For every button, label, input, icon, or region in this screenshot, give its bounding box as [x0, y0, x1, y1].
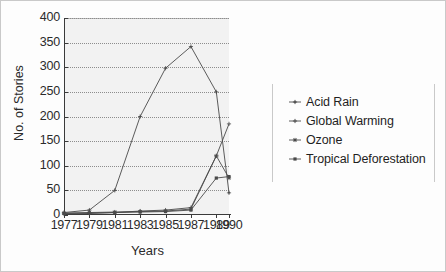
y-tick-label: 50	[24, 183, 60, 195]
legend-label: Acid Rain	[306, 95, 359, 109]
x-tick-mark	[115, 215, 116, 218]
x-tick-label: 1990	[211, 219, 247, 232]
series-global-warming	[62, 122, 231, 216]
chart-figure: 050100150200250300350400 197719791981198…	[0, 0, 446, 272]
data-point-marker-filled-square	[164, 210, 167, 213]
data-point-marker-filled-square	[227, 175, 230, 178]
y-tick-label: 300	[24, 60, 60, 72]
chart-legend: Acid RainGlobal WarmingOzoneTropical Def…	[288, 93, 438, 173]
y-tick-label: 200	[24, 110, 60, 122]
data-point-marker-plus-dot	[138, 114, 142, 118]
series-tropical-deforestation	[62, 175, 230, 215]
x-tick-mark	[191, 215, 192, 218]
data-point-marker-plus-dot	[214, 90, 218, 94]
series-ozone	[62, 154, 231, 215]
data-point-marker-filled-square	[189, 208, 192, 211]
data-point-marker-filled-square	[215, 176, 218, 179]
legend-label: Global Warming	[306, 114, 394, 128]
series-acid-rain	[62, 44, 231, 214]
y-tick-label: 350	[24, 36, 60, 48]
data-point-marker-plus-dot	[293, 100, 297, 104]
data-point-marker-filled-square	[139, 210, 142, 213]
legend-item-ozone[interactable]: Ozone	[288, 131, 342, 149]
legend-marker-plus-icon	[288, 114, 306, 128]
data-point-marker-plus	[227, 122, 231, 126]
data-point-marker-filled-square	[88, 211, 91, 214]
legend-marker-filled-square-icon	[288, 152, 306, 166]
legend-label: Ozone	[306, 133, 342, 147]
series-line	[64, 124, 229, 214]
legend-marker-asterisk-icon	[288, 133, 306, 147]
y-tick-label: 150	[24, 134, 60, 146]
y-tick-label: 100	[24, 159, 60, 171]
legend-label: Tropical Deforestation	[306, 152, 426, 166]
data-point-marker-asterisk	[214, 154, 218, 158]
data-point-marker-plus	[293, 119, 297, 123]
legend-marker-plus-dot-icon	[288, 95, 306, 109]
legend-item-acid-rain[interactable]: Acid Rain	[288, 93, 359, 111]
x-tick-mark	[166, 215, 167, 218]
data-point-marker-filled-square	[293, 157, 296, 160]
x-axis-title: Years	[64, 243, 231, 258]
figure-border-top	[0, 0, 446, 1]
y-axis-title: No. of Stories	[12, 53, 26, 153]
legend-box-left-edge	[272, 84, 273, 182]
series-line	[64, 47, 229, 213]
y-tick-label: 400	[24, 11, 60, 23]
y-tick-label: 250	[24, 85, 60, 97]
legend-item-global-warming[interactable]: Global Warming	[288, 112, 394, 130]
series-line	[64, 156, 229, 213]
x-tick-mark	[229, 215, 230, 218]
x-tick-mark	[140, 215, 141, 218]
data-point-marker-plus-dot	[227, 191, 231, 195]
figure-border-left	[0, 0, 1, 272]
data-point-marker-filled-square	[113, 211, 116, 214]
data-series-layer	[64, 18, 231, 215]
data-point-marker-asterisk	[293, 138, 297, 142]
legend-item-tropical-deforestation[interactable]: Tropical Deforestation	[288, 150, 426, 168]
data-point-marker-filled-square	[62, 212, 65, 215]
